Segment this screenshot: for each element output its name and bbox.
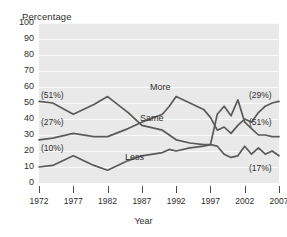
x-axis-tick-mark [210, 186, 211, 193]
y-axis-tick-label: 70 [8, 65, 34, 75]
y-axis-tick-label: 40 [8, 113, 34, 123]
y-axis-tick-label: 20 [8, 145, 34, 155]
gridline [39, 151, 279, 152]
y-axis-tick-label: 60 [8, 81, 34, 91]
pct-label-more-start: (51%) [41, 90, 64, 100]
pct-label-less-end: (17%) [249, 163, 272, 173]
x-axis-tick-mark [108, 186, 109, 193]
gridline [39, 39, 279, 40]
x-axis-tick-label: 1972 [22, 196, 56, 206]
series-label-less: Less [125, 152, 144, 162]
pct-label-more-end: (51%) [249, 117, 272, 127]
pct-label-same-start: (27%) [41, 117, 64, 127]
series-label-same: Same [140, 113, 164, 123]
x-axis-tick-label: 1992 [159, 196, 193, 206]
x-axis-tick-mark [245, 186, 246, 193]
pct-label-same-end: (29%) [249, 90, 272, 100]
x-axis-title: Year [0, 216, 287, 226]
gridline [39, 103, 279, 104]
x-axis-tick-label: 2007 [262, 196, 287, 206]
gridline [39, 71, 279, 72]
x-axis-tick-label: 2002 [228, 196, 262, 206]
x-axis-tick-mark [176, 186, 177, 193]
y-axis-tick-label: 30 [8, 129, 34, 139]
y-axis-tick-label: 80 [8, 49, 34, 59]
series-label-more: More [150, 82, 171, 92]
y-axis-tick-label: 100 [8, 17, 34, 27]
y-axis-tick-label: 0 [8, 177, 34, 187]
y-axis-tick-label: 50 [8, 97, 34, 107]
gridline [39, 23, 279, 24]
y-axis-tick-label: 10 [8, 161, 34, 171]
gridline [39, 135, 279, 136]
plot-area [39, 23, 279, 183]
x-axis-tick-label: 1997 [193, 196, 227, 206]
x-axis-tick-label: 1982 [91, 196, 125, 206]
pct-label-less-start: (10%) [41, 143, 64, 153]
gridline [39, 167, 279, 168]
y-axis-tick-label: 90 [8, 33, 34, 43]
x-axis-tick-mark [39, 186, 40, 193]
x-axis-tick-mark [73, 186, 74, 193]
line-chart-figure: Percentage 1009080706050403020100 197219… [0, 0, 287, 237]
x-axis-tick-label: 1987 [125, 196, 159, 206]
x-axis-tick-label: 1977 [56, 196, 90, 206]
x-axis-tick-mark [142, 186, 143, 193]
gridline [39, 55, 279, 56]
x-axis-tick-mark [279, 186, 280, 193]
